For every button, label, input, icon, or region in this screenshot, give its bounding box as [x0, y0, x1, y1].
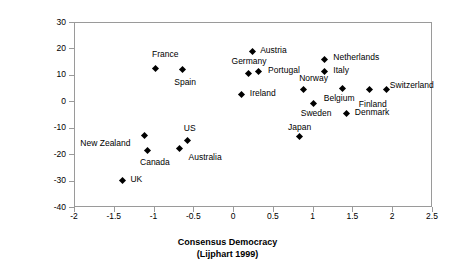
x-axis-tick-labels: -2-1.5-1-0.500.511.522.5 [0, 212, 455, 224]
data-point-label: Spain [174, 78, 196, 87]
data-point-label: Canada [140, 158, 170, 167]
data-point-label: Australia [189, 153, 222, 162]
x-axis-title: Consensus Democracy (Lijphart 1999) [0, 236, 455, 260]
x-tick-label: -2 [59, 212, 89, 221]
y-tick-label: -40 [40, 203, 66, 212]
y-tick-label: -10 [40, 123, 66, 132]
data-point-label: US [184, 124, 196, 133]
x-tick-label: 1.5 [337, 212, 367, 221]
data-point-label: Japan [288, 123, 311, 132]
data-point-label: UK [130, 175, 142, 184]
data-point-label: New Zealand [80, 139, 130, 148]
data-point-label: Switzerland [390, 81, 434, 90]
x-axis-title-line2: (Lijphart 1999) [0, 248, 455, 260]
data-point-label: Portugal [268, 66, 300, 75]
data-point-label: Ireland [250, 89, 276, 98]
data-point-label: Norway [299, 74, 328, 83]
x-tick-label: 1 [298, 212, 328, 221]
x-tick-label: -1 [139, 212, 169, 221]
y-tick-label: 20 [40, 44, 66, 53]
x-tick-label: 0 [218, 212, 248, 221]
data-point-label: France [152, 50, 178, 59]
data-point-label: Germany [232, 57, 267, 66]
data-point-label: Denmark [355, 108, 389, 117]
x-tick-label: 2 [377, 212, 407, 221]
data-point-label: Sweden [301, 109, 332, 118]
data-point-label: Austria [260, 46, 286, 55]
x-tick-label: -0.5 [178, 212, 208, 221]
y-tick-label: 10 [40, 70, 66, 79]
x-tick-label: -1.5 [99, 212, 129, 221]
x-tick-label: 2.5 [417, 212, 447, 221]
x-axis-title-line1: Consensus Democracy [178, 237, 278, 247]
y-tick-label: -30 [40, 176, 66, 185]
y-tick-label: 0 [40, 97, 66, 106]
data-point-label: Netherlands [333, 53, 379, 62]
x-tick-label: 0.5 [258, 212, 288, 221]
y-tick-label: 30 [40, 18, 66, 27]
y-tick-label: -20 [40, 150, 66, 159]
y-axis-tick-labels: 3020100-10-20-30-40 [38, 0, 66, 275]
data-point-label: Italy [333, 66, 349, 75]
data-point-label: Belgium [324, 94, 355, 103]
scatter-chart: Labor-Capital Tax Differential (Mendoza … [0, 0, 455, 275]
